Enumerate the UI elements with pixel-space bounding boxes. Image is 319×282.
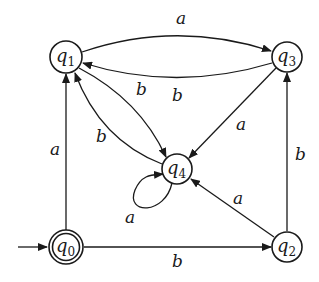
edge-label-q4-q1: b <box>96 126 107 146</box>
edge-label-q3-q1: b <box>172 85 183 105</box>
edge-q3-q1 <box>83 63 272 78</box>
edge-label-q0-q1: a <box>50 139 60 159</box>
edge-q3-q4 <box>189 68 276 158</box>
automaton-diagram: a b b b a a a b a b q1 q3 q4 q0 <box>0 0 319 282</box>
edge-q1-q3 <box>82 36 271 52</box>
state-q3: q3 <box>272 42 302 72</box>
state-q2: q2 <box>272 232 302 262</box>
state-q1: q1 <box>50 41 82 73</box>
edge-q1-q4 <box>79 68 166 157</box>
edge-label-q2-q4: a <box>233 188 243 208</box>
edge-label-q1-q3: a <box>176 8 186 28</box>
edge-label-q0-q2: b <box>172 251 183 271</box>
edge-label-q4-q4: a <box>125 207 135 227</box>
edge-label-q3-q4: a <box>236 114 246 134</box>
edge-q4-q1 <box>75 73 162 164</box>
state-q4: q4 <box>162 154 192 184</box>
edge-label-q1-q4: b <box>136 79 147 99</box>
state-q0: q0 <box>49 230 83 264</box>
edge-label-q2-q3: b <box>295 144 306 164</box>
